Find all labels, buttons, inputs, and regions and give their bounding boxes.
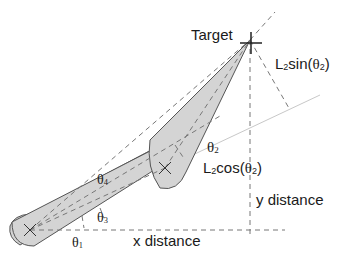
- y-distance-label: y distance: [256, 192, 324, 207]
- target-label: Target: [191, 27, 233, 42]
- theta4-label: θ4: [97, 173, 108, 187]
- l2sin-post: ): [325, 55, 330, 72]
- l2cos-post: ): [257, 159, 262, 176]
- diagram-canvas: [0, 0, 346, 262]
- l2sin-mid: sin(: [288, 55, 312, 72]
- l2cos-tsub: 2: [252, 166, 257, 176]
- theta2-sub: 2: [214, 145, 219, 155]
- x-distance-label: x distance: [133, 233, 201, 248]
- l2cos-label: L2cos(θ2): [203, 160, 262, 176]
- theta3-sub: 3: [104, 216, 108, 225]
- l2sin-theta: θ: [313, 56, 320, 72]
- l2sin-tsub: 2: [320, 62, 325, 72]
- theta2-label: θ2: [207, 140, 219, 155]
- theta1-label: θ1: [72, 236, 83, 250]
- theta3-marker: [82, 216, 84, 228]
- l2sin-sub: 2: [283, 62, 288, 72]
- l2cos-sub: 2: [211, 166, 216, 176]
- theta4-symbol: θ: [97, 172, 104, 187]
- theta1-symbol: θ: [72, 235, 79, 250]
- theta4-sub: 4: [104, 178, 108, 187]
- l2sin-line: [250, 40, 290, 110]
- theta3-label: θ3: [97, 211, 108, 225]
- l2cos-theta: θ: [245, 160, 252, 176]
- two-link-arm-diagram: Target L2sin(θ2) θ2 L2cos(θ2) θ4 θ3 θ1 y…: [0, 0, 346, 262]
- theta1-sub: 1: [79, 241, 83, 250]
- target-extension-line: [250, 12, 275, 40]
- l2sin-label: L2sin(θ2): [275, 56, 330, 72]
- l2cos-mid: cos(: [216, 159, 244, 176]
- theta3-symbol: θ: [97, 210, 104, 225]
